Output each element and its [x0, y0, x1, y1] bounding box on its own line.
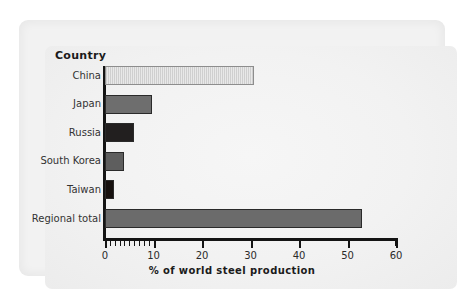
x-tick-label-30: 30 — [231, 250, 271, 261]
bar-russia — [105, 123, 134, 142]
bar-taiwan — [105, 180, 114, 199]
x-minor-tick-3 — [120, 241, 121, 246]
y-tick-label-south-korea: South Korea — [5, 155, 101, 167]
x-minor-tick-8 — [144, 241, 145, 246]
y-tick-label-china: China — [5, 70, 101, 82]
x-tick-label-20: 20 — [182, 250, 222, 261]
x-tick-label-40: 40 — [279, 250, 319, 261]
x-tick-label-60: 60 — [376, 250, 416, 261]
y-axis-title: Country — [55, 49, 106, 62]
x-tick-label-0: 0 — [85, 250, 125, 261]
x-minor-tick-6 — [134, 241, 135, 246]
bar-japan — [105, 95, 152, 114]
x-minor-tick-7 — [139, 241, 140, 246]
bar-chart-plot: Country ChinaJapanRussiaSouth KoreaTaiwa… — [0, 0, 464, 295]
x-minor-tick-2 — [115, 241, 116, 246]
x-minor-tick-5 — [129, 241, 130, 246]
x-minor-tick-9 — [149, 241, 150, 246]
x-tick-40 — [299, 241, 301, 248]
figure: Country ChinaJapanRussiaSouth KoreaTaiwa… — [0, 0, 464, 295]
x-axis-title: % of world steel production — [0, 265, 464, 276]
x-tick-60 — [396, 241, 398, 248]
x-tick-50 — [348, 241, 350, 248]
x-tick-30 — [251, 241, 253, 248]
y-tick-label-taiwan: Taiwan — [5, 184, 101, 196]
x-tick-label-50: 50 — [328, 250, 368, 261]
x-tick-0 — [105, 241, 107, 248]
y-tick-label-russia: Russia — [5, 127, 101, 139]
bar-south-korea — [105, 152, 124, 171]
y-tick-label-regional-total: Regional total — [5, 213, 101, 225]
y-tick-label-japan: Japan — [5, 98, 101, 110]
x-minor-tick-1 — [110, 241, 111, 246]
x-tick-label-10: 10 — [134, 250, 174, 261]
bar-china — [105, 66, 254, 85]
x-tick-20 — [202, 241, 204, 248]
x-minor-tick-4 — [124, 241, 125, 246]
x-tick-10 — [154, 241, 156, 248]
bar-regional-total — [105, 209, 362, 228]
